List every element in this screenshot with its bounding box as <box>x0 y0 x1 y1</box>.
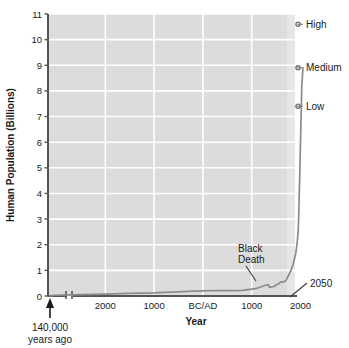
x-axis-title: Year <box>185 316 206 327</box>
x-axis-tick-label: 1000 <box>144 300 165 311</box>
x-axis-tick-label: 2000 <box>95 300 116 311</box>
y-axis-tick-label: 5 <box>37 162 42 173</box>
x-axis-tick-label: 1000 <box>241 300 262 311</box>
y-axis-tick-label: 11 <box>32 9 42 20</box>
y-axis-tick-label: 7 <box>37 111 42 122</box>
y-axis-tick-label: 8 <box>37 85 42 96</box>
y-axis-tick-label: 3 <box>37 214 42 225</box>
black-death-label-line1: Black <box>238 243 263 254</box>
origin-note-line2: years ago <box>28 334 72 345</box>
y-axis-tick-label: 9 <box>37 60 42 71</box>
y-axis-tick-label: 4 <box>37 188 42 199</box>
y-axis-title: Human Population (Billions) <box>5 88 16 222</box>
y-axis-tick-label: 1 <box>37 265 42 276</box>
y-axis-tick-label: 0 <box>37 291 42 302</box>
population-chart: 0123456789101120001000BC/AD10002000HighM… <box>0 0 349 348</box>
y-axis-tick-label: 2 <box>37 239 42 250</box>
black-death-label-line2: Death <box>238 254 265 265</box>
x-axis-tick-label: BC/AD <box>188 300 217 311</box>
origin-note-line1: 140,000 <box>32 322 69 333</box>
projection-label: Medium <box>306 62 342 73</box>
x-axis-tick-label: 2000 <box>290 300 311 311</box>
y-axis-tick-label: 10 <box>31 34 42 45</box>
chart-canvas: 0123456789101120001000BC/AD10002000HighM… <box>0 0 349 348</box>
projection-band <box>287 14 295 296</box>
year-2050-label: 2050 <box>310 278 333 289</box>
projection-label: Low <box>306 101 325 112</box>
y-axis-tick-label: 6 <box>37 137 42 148</box>
origin-arrow-head <box>46 298 54 308</box>
projection-label: High <box>306 19 327 30</box>
